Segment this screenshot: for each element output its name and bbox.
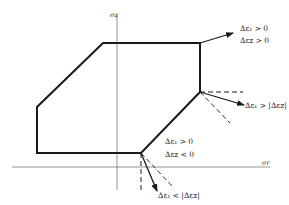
- sigma-r-label: σr: [262, 159, 270, 167]
- annotation-right: Δε₁ > |Δεz|: [245, 101, 287, 110]
- yield-surface-diagram: σz σr Δε₁ > 0 Δεz > 0 Δε₁ > |Δεz| Δε₁ > …: [0, 0, 289, 205]
- annotation-middle-line1: Δε₁ > 0: [165, 137, 193, 146]
- strain-increment-arrow-top: [200, 33, 233, 43]
- annotation-bottom: Δε₁ < |Δεz|: [158, 191, 200, 200]
- annotation-top-line1: Δε₁ > 0: [240, 24, 268, 33]
- annotation-top-line2: Δεz > 0: [240, 36, 269, 45]
- annotation-middle-line2: Δεz < 0: [165, 150, 194, 159]
- sigma-z-label: σz: [110, 11, 118, 19]
- strain-increment-arrow-bottom: [141, 153, 157, 191]
